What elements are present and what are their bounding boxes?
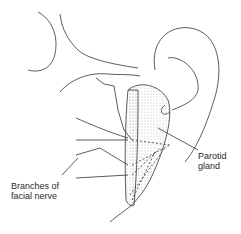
jaw-contour [60,74,140,92]
parotid-gland-label: Parotid gland [198,151,227,171]
face-contour [28,12,56,71]
label-line: Branches of [11,181,59,191]
facial-nerve-label: Branches of facial nerve [11,181,59,201]
label-line: gland [198,161,227,171]
cheek-contour [60,14,138,68]
nerve-lower [110,205,132,222]
label-line: facial nerve [11,191,59,201]
leader-nerve [62,158,78,175]
ear-inner [168,58,198,110]
nerve-1 [76,118,128,138]
nerve-3 [76,148,128,165]
nerve-4 [76,175,128,178]
label-line: Parotid [198,151,227,161]
